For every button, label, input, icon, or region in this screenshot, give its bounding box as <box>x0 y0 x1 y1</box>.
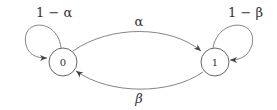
state-1: 1 <box>201 48 229 76</box>
edge-0-to-1 <box>73 32 201 52</box>
markov-chain-diagram: 0 1 1 − α 1 − β α β <box>0 0 277 110</box>
edge-1-to-0 <box>76 71 203 89</box>
state-0-label: 0 <box>60 57 66 68</box>
edge-0-to-1-label: α <box>135 14 144 29</box>
self-loop-1-label: 1 − β <box>228 5 263 20</box>
edge-1-to-0-label: β <box>134 91 143 106</box>
state-0: 0 <box>49 48 77 76</box>
state-1-label: 1 <box>212 57 218 68</box>
self-loop-0-label: 1 − α <box>36 5 72 20</box>
